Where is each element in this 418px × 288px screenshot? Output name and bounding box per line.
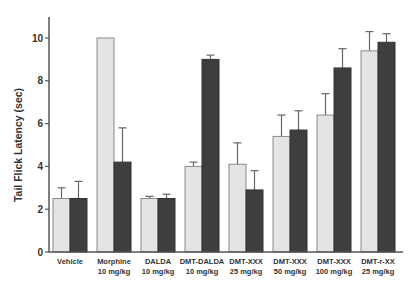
x-category-label: DMT-r-XX	[361, 257, 395, 266]
bar-dark	[378, 42, 395, 252]
bar-group	[317, 49, 351, 252]
bar-light	[273, 136, 290, 252]
x-category-dose: 25 mg/kg	[362, 267, 395, 276]
bars	[53, 32, 395, 252]
bar-dark	[202, 59, 219, 252]
bar-light	[229, 164, 246, 252]
bar-group	[361, 32, 395, 252]
x-category-label: DMT-XXX	[229, 257, 262, 266]
bar-light	[53, 199, 70, 253]
y-tick-label: 6	[37, 118, 43, 129]
x-category-label: DMT-DALDA	[180, 257, 225, 266]
bar-dark	[114, 162, 131, 252]
x-category-dose: 50 mg/kg	[274, 267, 307, 276]
bar-group	[97, 38, 131, 252]
bar-group	[185, 55, 219, 252]
y-axis-title: Tail Flick Latency (sec)	[12, 88, 24, 202]
bar-dark	[246, 190, 263, 252]
x-category-label: Vehicle	[57, 257, 83, 266]
bar-light	[317, 115, 334, 252]
x-category-dose: 10 mg/kg	[186, 267, 219, 276]
bar-group	[53, 181, 87, 252]
x-category-label: DALDA	[145, 257, 172, 266]
x-axis: VehicleMorphine10 mg/kgDALDA10 mg/kgDMT-…	[49, 252, 403, 276]
x-category-dose: 100 mg/kg	[316, 267, 353, 276]
x-category-label: DMT-XXX	[273, 257, 306, 266]
x-category-dose: 25 mg/kg	[230, 267, 263, 276]
x-category-dose: 10 mg/kg	[142, 267, 175, 276]
y-tick-label: 8	[37, 75, 43, 86]
bar-group	[141, 194, 175, 252]
bar-dark	[158, 199, 175, 253]
bar-dark	[70, 199, 87, 253]
y-tick-label: 0	[37, 247, 43, 258]
bar-chart: 0246810 VehicleMorphine10 mg/kgDALDA10 m…	[0, 0, 418, 288]
bar-light	[361, 51, 378, 252]
bar-light	[97, 38, 114, 252]
x-category-label: DMT-XXX	[317, 257, 350, 266]
y-axis: 0246810	[32, 17, 49, 258]
x-category-dose: 10 mg/kg	[98, 267, 131, 276]
bar-group	[273, 111, 307, 252]
bar-light	[141, 199, 158, 253]
bar-dark	[290, 130, 307, 252]
x-category-label: Morphine	[97, 257, 131, 266]
bar-light	[185, 166, 202, 252]
bar-group	[229, 143, 263, 252]
y-tick-label: 4	[37, 161, 43, 172]
bar-dark	[334, 68, 351, 252]
y-tick-label: 10	[32, 33, 44, 44]
y-tick-label: 2	[37, 204, 43, 215]
